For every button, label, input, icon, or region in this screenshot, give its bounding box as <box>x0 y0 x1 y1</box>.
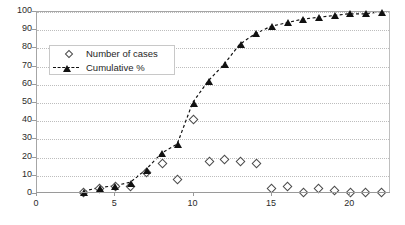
x-tick-label: 20 <box>337 198 361 208</box>
legend-label-cumulative-percent: Cumulative % <box>86 62 145 73</box>
x-tick-mark <box>349 192 350 196</box>
x-axis: 05101520 <box>36 196 390 216</box>
open-diamond-marker <box>220 154 230 164</box>
filled-triangle-marker <box>205 78 213 85</box>
x-tick-label: 10 <box>181 198 205 208</box>
x-tick-label: 0 <box>24 198 48 208</box>
pareto-chart: 0102030405060708090100 05101520 Number o… <box>0 0 405 225</box>
gridline <box>37 158 389 159</box>
plot-inner <box>37 12 389 193</box>
filled-triangle-marker <box>143 167 151 174</box>
y-tick-label: 30 <box>2 133 32 142</box>
y-tick-mark <box>32 47 36 48</box>
open-diamond-marker <box>283 182 293 192</box>
x-tick-mark <box>271 192 272 196</box>
filled-triangle-marker <box>331 12 339 19</box>
plot-area <box>36 11 390 193</box>
x-tick-label: 15 <box>259 198 283 208</box>
open-diamond-marker <box>189 114 199 124</box>
y-tick-label: 10 <box>2 170 32 179</box>
gridline <box>37 121 389 122</box>
y-tick-label: 90 <box>2 24 32 33</box>
y-tick-mark <box>32 102 36 103</box>
filled-triangle-marker <box>190 100 198 107</box>
x-tick-mark <box>114 192 115 196</box>
y-tick-mark <box>32 120 36 121</box>
x-tick-mark <box>36 192 37 196</box>
chart-legend: Number of cases Cumulative % <box>49 45 175 75</box>
filled-triangle-marker <box>315 14 323 21</box>
y-axis: 0102030405060708090100 <box>0 11 32 193</box>
filled-triangle-marker <box>127 180 135 187</box>
y-tick-mark <box>32 11 36 12</box>
y-tick-label: 80 <box>2 42 32 51</box>
y-tick-label: 0 <box>2 188 32 197</box>
y-tick-label: 50 <box>2 97 32 106</box>
y-tick-label: 100 <box>2 6 32 15</box>
filled-triangle-marker <box>221 61 229 68</box>
gridline <box>37 139 389 140</box>
filled-triangle-marker <box>237 41 245 48</box>
filled-triangle-marker <box>284 19 292 26</box>
filled-triangle-marker <box>174 141 182 148</box>
filled-triangle-marker <box>158 150 166 157</box>
filled-triangle-dashed-icon <box>50 61 86 75</box>
x-tick-mark <box>193 192 194 196</box>
legend-label-number-of-cases: Number of cases <box>86 48 158 59</box>
filled-triangle-marker <box>299 16 307 23</box>
filled-triangle-marker <box>252 30 260 37</box>
y-tick-label: 60 <box>2 79 32 88</box>
open-diamond-marker <box>330 185 340 195</box>
filled-triangle-marker <box>346 10 354 17</box>
filled-triangle-marker <box>111 183 119 190</box>
filled-triangle-marker <box>268 23 276 30</box>
gridline <box>37 176 389 177</box>
filled-triangle-marker <box>362 10 370 17</box>
open-diamond-icon <box>50 47 86 61</box>
y-tick-mark <box>32 175 36 176</box>
y-tick-mark <box>32 157 36 158</box>
y-tick-mark <box>32 66 36 67</box>
y-tick-mark <box>32 29 36 30</box>
y-tick-label: 20 <box>2 152 32 161</box>
filled-triangle-marker <box>378 9 386 16</box>
legend-item-number-of-cases: Number of cases <box>50 46 174 61</box>
legend-item-cumulative-percent: Cumulative % <box>50 60 174 75</box>
open-diamond-marker <box>251 158 261 168</box>
gridline <box>37 103 389 104</box>
x-axis-line <box>36 192 390 193</box>
open-diamond-marker <box>157 158 167 168</box>
filled-triangle-marker <box>96 185 104 192</box>
gridline <box>37 30 389 31</box>
y-tick-mark <box>32 84 36 85</box>
y-tick-label: 40 <box>2 115 32 124</box>
y-tick-mark <box>32 138 36 139</box>
y-tick-label: 70 <box>2 61 32 70</box>
gridline <box>37 85 389 86</box>
x-tick-label: 5 <box>102 198 126 208</box>
